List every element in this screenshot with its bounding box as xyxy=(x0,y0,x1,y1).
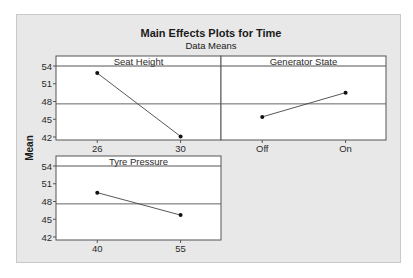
x-tick-label: 30 xyxy=(175,143,186,154)
y-tick-label: 54 xyxy=(41,161,52,172)
data-point xyxy=(179,134,183,138)
data-point xyxy=(179,213,183,217)
y-tick-label: 45 xyxy=(41,214,52,225)
x-tick-label: 26 xyxy=(92,143,103,154)
panel-frame xyxy=(56,56,221,140)
x-tick-label: 40 xyxy=(92,243,103,254)
y-tick-label: 48 xyxy=(41,96,52,107)
panel-generator-state: Generator StateOffOn xyxy=(221,56,386,155)
data-point xyxy=(260,115,264,119)
y-tick-label: 51 xyxy=(41,78,52,89)
main-effects-chart: Main Effects Plots for Time Data Means M… xyxy=(0,0,413,278)
y-axis-label: Mean xyxy=(24,135,35,161)
y-tick-label: 51 xyxy=(41,178,52,189)
y-tick-label: 42 xyxy=(41,132,52,143)
data-point xyxy=(344,91,348,95)
y-tick-label: 45 xyxy=(41,114,52,125)
panel-title: Generator State xyxy=(270,56,338,67)
y-tick-label: 54 xyxy=(41,61,52,72)
chart-subtitle: Data Means xyxy=(185,40,236,51)
x-tick-label: On xyxy=(339,143,352,154)
panel-tyre-pressure: Tyre Pressure42454851544055 xyxy=(41,156,221,255)
data-point xyxy=(95,191,99,195)
chart-title: Main Effects Plots for Time xyxy=(141,27,282,39)
panel-seat-height: Seat Height42454851542630 xyxy=(41,56,221,155)
panel-frame xyxy=(221,56,386,140)
y-tick-label: 42 xyxy=(41,232,52,243)
data-point xyxy=(95,71,99,75)
x-tick-label: 55 xyxy=(175,243,186,254)
panel-title: Tyre Pressure xyxy=(109,156,168,167)
x-tick-label: Off xyxy=(256,143,269,154)
panel-frame xyxy=(56,156,221,240)
y-tick-label: 48 xyxy=(41,196,52,207)
panel-title: Seat Height xyxy=(114,56,164,67)
